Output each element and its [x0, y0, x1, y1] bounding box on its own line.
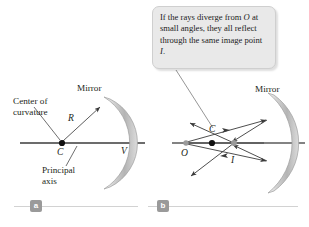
panel-b-reflected-ray-upper	[232, 120, 267, 142]
panel-a-principal-axis-label-line2: axis	[42, 177, 57, 187]
panel-a-tab-label: a	[30, 200, 42, 212]
callout-line-4-end: .	[163, 46, 165, 56]
panel-b-image-point-label: I	[231, 155, 234, 165]
panel-a-center-of-curvature-label-line1: Center of	[13, 97, 47, 107]
panel-a-principal-axis-label-line1: Principal	[42, 166, 75, 176]
panel-b-tab-row: b	[148, 200, 298, 214]
panel-a-vertex-label: V	[121, 146, 127, 156]
panel-b-incident-ray-lower	[187, 144, 266, 161]
panel-a-mirror-label: Mirror	[77, 84, 102, 94]
panel-b-tab-label: b	[157, 200, 169, 212]
panel-b-diagram	[172, 70, 305, 193]
panel-b-center-point-label: C	[209, 124, 215, 134]
panel-a-center-point-label: C	[57, 147, 63, 157]
callout-box: If the rays diverge from O at small angl…	[152, 6, 276, 69]
panel-b-ray-midarrow-lower	[220, 153, 228, 158]
panel-b-diverging-ray-down-left	[191, 143, 234, 176]
panel-a-tab-row: a	[14, 200, 138, 214]
panel-a-leader-principal-axis	[66, 146, 77, 166]
panel-b-callout-leader	[176, 70, 213, 128]
panel-b-image-point-dot	[231, 140, 237, 146]
callout-line-1: If the rays diverge from	[160, 12, 241, 22]
panel-b-center-point-dot	[209, 140, 215, 146]
panel-a-radius-label: R	[68, 113, 74, 123]
callout-line-4: same image point	[202, 35, 263, 45]
panel-b-object-point-dot	[183, 140, 188, 145]
panel-a-center-of-curvature-label-line2: curvature	[13, 108, 48, 118]
panel-b-rule	[148, 206, 298, 207]
panel-b-reflected-ray-lower	[233, 145, 267, 161]
panel-b-mirror-label: Mirror	[255, 85, 280, 95]
panel-b-object-point-label: O	[181, 148, 188, 158]
